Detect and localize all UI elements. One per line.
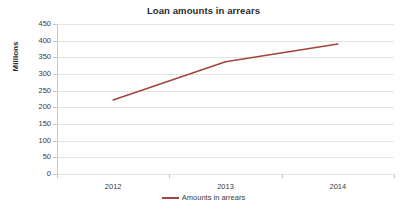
- x-tick-mark: [282, 174, 283, 178]
- y-tick-label: 100: [38, 137, 51, 145]
- x-tick-mark: [394, 174, 395, 178]
- gridline: [57, 174, 394, 175]
- y-tick-label: 350: [38, 54, 51, 62]
- x-tick-label: 2013: [217, 182, 234, 191]
- x-tick-mark: [169, 174, 170, 178]
- series-line-amounts-in-arrears: [57, 24, 394, 174]
- y-tick-label: 0: [47, 170, 51, 178]
- legend-line-swatch: [162, 197, 179, 199]
- x-tick-mark: [57, 174, 58, 178]
- x-tick-label: 2014: [329, 182, 346, 191]
- x-tick-label: 2012: [105, 182, 122, 191]
- legend-item-label: Amounts in arrears: [182, 193, 245, 202]
- y-tick-label: 250: [38, 87, 51, 95]
- y-tick-label: 300: [38, 70, 51, 78]
- chart-title: Loan amounts in arrears: [0, 5, 407, 16]
- chart-container: Loan amounts in arrears Millions 0501001…: [0, 0, 407, 210]
- plot-area: 050100150200250300350400450: [57, 24, 394, 174]
- y-tick-label: 200: [38, 104, 51, 112]
- y-tick-label: 50: [43, 154, 51, 162]
- y-tick-label: 450: [38, 20, 51, 28]
- chart-legend: Amounts in arrears: [0, 193, 407, 202]
- y-tick-label: 400: [38, 37, 51, 45]
- y-tick-label: 150: [38, 120, 51, 128]
- y-axis-title: Millions: [11, 29, 20, 85]
